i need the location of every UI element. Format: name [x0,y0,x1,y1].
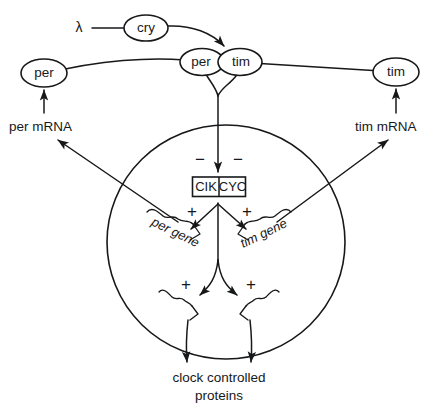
dimer-to-tim-curve [252,63,381,71]
per-dimer-label: per [191,54,211,69]
ccg-left-strand-tail [190,306,198,320]
activation-sign-upper-right: + [242,202,252,221]
tim-mrna-label: tim mRNA [355,119,417,134]
nucleus-membrane [107,125,345,359]
dimer-merge-left-branch [207,76,218,96]
activate-ccg-right-arrow [218,260,237,295]
activation-sign-upper-left: + [187,202,197,221]
activation-sign-lower-left: + [181,275,191,294]
tim-gene-transcription-arrow [277,140,388,222]
per-protein-label: per [34,65,54,80]
diagram-canvas: λ cry per tim per per mRNA tim tim mRNA [0,0,435,406]
dimer-merge-right-branch [218,76,236,96]
per-gene-transcription-arrow [58,140,178,222]
clk-subunit-label: CIK [195,179,217,194]
circadian-clock-diagram: λ cry per tim per per mRNA tim tim mRNA [0,0,435,406]
clock-controlled-proteins-line1: clock controlled [172,370,265,385]
cyc-subunit-label: CYC [219,179,246,194]
ccg-left-output-arrow [186,320,188,362]
repression-sign-left: − [195,150,205,169]
cry-to-dimer-arrow [168,26,224,46]
per-to-dimer-curve [48,59,185,73]
ccg-right-strand-tail [240,306,248,320]
repression-sign-right: − [233,150,243,169]
tim-protein-label: tim [387,64,405,79]
per-mrna-label: per mRNA [9,119,72,134]
activate-ccg-left-arrow [200,260,218,295]
ccg-right-output-arrow [250,320,252,362]
tim-dimer-label: tim [232,54,250,69]
light-input-lambda-label: λ [76,19,83,35]
activation-sign-lower-right: + [246,275,256,294]
cry-node-label: cry [137,20,155,35]
clock-controlled-proteins-line2: proteins [195,388,243,403]
